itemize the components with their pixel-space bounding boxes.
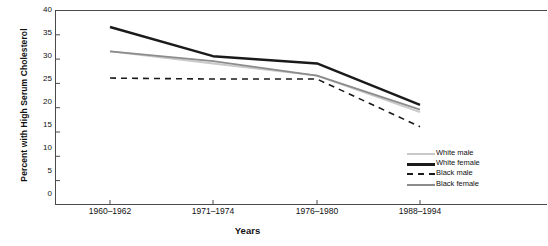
x-tick-label: 1971–1974 [168,206,258,216]
y-tick-label: 20 [26,98,52,106]
y-tick-label: 40 [26,6,52,14]
y-tick-label: 0 [26,190,52,198]
legend-label: Black male [436,168,473,178]
y-tick-label: 15 [26,121,52,129]
legend-line-icon [407,149,435,157]
chart-legend: White male White female Black male Black… [407,148,480,189]
legend-line-icon [407,159,435,167]
chart-container: Percent with High Serum Cholesterol 40 3… [0,0,548,246]
legend-label: Black female [436,179,479,189]
series-layer [110,27,420,127]
y-tick-label: 10 [26,144,52,152]
legend-line-icon [407,180,435,188]
y-tick-label: 35 [26,29,52,37]
legend-item-black-female: Black female [407,179,480,189]
legend-item-white-male: White male [407,148,480,158]
y-axis-tick-labels: 40 35 30 25 20 15 10 5 0 [22,0,52,246]
series-line [110,27,420,105]
y-tick-label: 5 [26,167,52,175]
legend-label: White female [436,158,480,168]
legend-item-black-male: Black male [407,168,480,178]
y-tick-label: 25 [26,75,52,83]
legend-label: White male [436,148,474,158]
legend-item-white-female: White female [407,158,480,168]
x-tick-label: 1988–1994 [375,206,465,216]
legend-dashed-line-icon [407,169,435,177]
y-tick-label: 30 [26,52,52,60]
x-tick-label: 1976–1980 [272,206,362,216]
x-tick-label: 1960–1962 [65,206,155,216]
x-axis-title: Years [75,225,420,236]
